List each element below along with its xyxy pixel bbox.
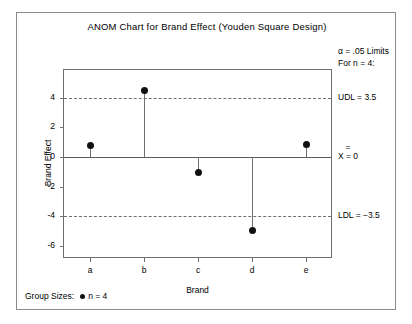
y-tick-mark [60,187,64,188]
y-tick-label: 2 [23,121,55,131]
data-point-d[interactable] [249,227,256,234]
sample-size-annotation: For n = 4: [338,58,375,68]
data-point-c[interactable] [195,169,202,176]
y-tick-label: -4 [23,210,55,220]
center-line-annotation: =X = 0 [338,151,358,161]
y-tick-mark [60,216,64,217]
x-tick-mark [90,258,91,262]
x-tick-label-e: e [304,265,309,275]
chart-title: ANOM Chart for Brand Effect (Youden Squa… [17,21,397,32]
ldl-annotation: LDL = −3.5 [338,210,380,220]
x-tick-mark [198,258,199,262]
y-tick-label: 4 [23,92,55,102]
x-tick-label-b: b [142,265,147,275]
alpha-limits-annotation: α = .05 Limits [338,46,389,56]
legend-entry: n = 4 [88,291,107,301]
stem-d [252,157,253,230]
x-tick-mark [306,258,307,262]
lower-decision-limit-line [64,216,331,217]
center-label-overbar-group: =X = 0 [338,151,358,161]
x-tick-mark [252,258,253,262]
x-tick-label-c: c [196,265,200,275]
data-point-a[interactable] [87,142,94,149]
x-tick-mark [144,258,145,262]
center-label-text: X = 0 [338,151,358,161]
legend: Group Sizes:n = 4 [25,291,107,301]
y-tick-mark [60,98,64,99]
y-tick-mark [60,157,64,158]
data-point-e[interactable] [303,141,310,148]
stem-b [144,90,145,157]
legend-point-icon [80,294,85,299]
legend-prefix: Group Sizes: [25,291,74,301]
chart-figure: ANOM Chart for Brand Effect (Youden Squa… [16,12,396,310]
plot-area [63,69,332,258]
y-axis-label: Brand Effect [43,140,53,187]
y-tick-label: -6 [23,240,55,250]
x-tick-label-d: d [250,265,255,275]
y-tick-mark [60,246,64,247]
y-tick-label: -2 [23,181,55,191]
udl-annotation: UDL = 3.5 [338,92,376,102]
y-tick-label: 0 [23,151,55,161]
double-overbar: = [338,146,358,148]
x-tick-label-a: a [88,265,93,275]
data-point-b[interactable] [141,87,148,94]
y-tick-mark [60,127,64,128]
upper-decision-limit-line [64,98,331,99]
